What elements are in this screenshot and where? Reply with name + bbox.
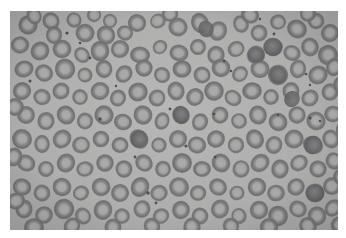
micrograph-canvas	[10, 11, 338, 230]
vignette-overlay	[10, 11, 338, 230]
figure-container: Peripheral blood smear photomicrograph	[0, 0, 346, 238]
blood-smear-micrograph	[10, 11, 338, 230]
